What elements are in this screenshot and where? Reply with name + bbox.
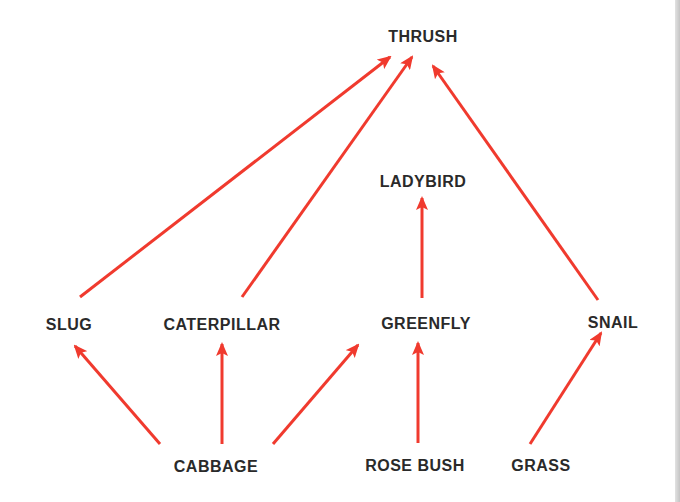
node-snail: SNAIL [588, 314, 639, 332]
node-cabbage: CABBAGE [174, 458, 258, 476]
node-slug: SLUG [46, 316, 92, 334]
node-caterpillar: CATERPILLAR [163, 316, 280, 334]
node-greenfly: GREENFLY [381, 315, 471, 333]
arrow-cabbage-to-greenfly [273, 345, 358, 444]
arrow-grass-to-snail [530, 333, 601, 444]
node-ladybird: LADYBIRD [380, 173, 467, 191]
arrow-slug-to-thrush [80, 57, 390, 297]
arrow-cabbage-to-slug [75, 346, 160, 444]
arrows-layer [0, 0, 680, 502]
node-grass: GRASS [511, 457, 570, 475]
node-thrush: THRUSH [388, 28, 458, 46]
food-web-diagram: THRUSH LADYBIRD SLUG CATERPILLAR GREENFL… [0, 0, 680, 502]
node-rose-bush: ROSE BUSH [365, 457, 465, 475]
page-edge-divider [675, 0, 680, 502]
